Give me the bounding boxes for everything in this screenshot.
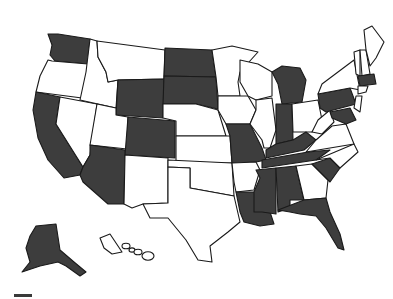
map-canvas — [0, 0, 393, 299]
state-wy — [116, 79, 164, 118]
state-ct — [358, 86, 368, 94]
state-or — [36, 60, 88, 98]
state-hi-island — [134, 249, 142, 255]
state-ak — [22, 224, 86, 276]
state-ma — [358, 74, 376, 86]
state-hi-island — [142, 252, 154, 260]
legend-swatch — [14, 294, 32, 297]
state-mi — [272, 66, 306, 104]
state-hi-island — [122, 243, 130, 249]
us-choropleth-map — [0, 0, 393, 299]
state-hi — [100, 234, 122, 254]
state-in — [276, 104, 293, 144]
state-mt — [97, 41, 165, 82]
state-nm — [124, 155, 168, 208]
state-fl — [278, 198, 344, 250]
state-nj — [354, 96, 362, 112]
state-ks — [176, 136, 232, 163]
state-wi — [240, 60, 272, 100]
state-ny — [318, 60, 360, 94]
state-wa — [48, 34, 90, 64]
state-nd — [164, 48, 216, 77]
state-ia — [218, 96, 256, 124]
state-co — [125, 117, 175, 158]
